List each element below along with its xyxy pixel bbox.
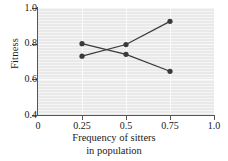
x-tick-label: 0.75 [153, 120, 187, 131]
data-point-marker [123, 42, 128, 47]
x-tick-label: 1.0 [197, 120, 228, 131]
plot-area [38, 8, 214, 115]
y-tick-label: 0.6 [11, 73, 37, 84]
y-tick-label: 1.0 [11, 2, 37, 13]
data-point-marker [167, 69, 172, 74]
data-series-layer [38, 8, 214, 115]
x-axis-label: Frequency of sitters in population [0, 132, 228, 157]
series-line [82, 44, 170, 72]
x-tick-label: 0.25 [65, 120, 99, 131]
series-line [82, 21, 170, 56]
data-point-marker [123, 52, 128, 57]
x-tick-label: 0 [21, 120, 55, 131]
figure: Fitness 1.00.80.60.4 00.250.50.751.0 Fre… [0, 0, 228, 161]
y-tick-label: 0.4 [11, 109, 37, 120]
data-point-marker [167, 19, 172, 24]
y-tick-label: 0.8 [11, 37, 37, 48]
data-point-marker [79, 41, 84, 46]
data-point-marker [79, 54, 84, 59]
x-axis-label-line2: in population [0, 145, 228, 158]
x-tick-label: 0.5 [109, 120, 143, 131]
x-axis-label-line1: Frequency of sitters [0, 132, 228, 145]
